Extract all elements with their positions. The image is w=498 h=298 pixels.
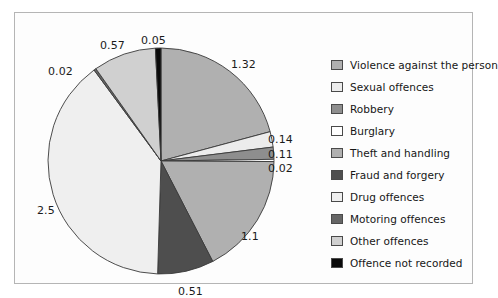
chart-frame: 0.051.320.140.110.021.10.512.50.020.57 V… — [14, 12, 473, 284]
legend-item[interactable]: Robbery — [331, 98, 481, 120]
legend-item[interactable]: Fraud and forgery — [331, 164, 481, 186]
legend-item[interactable]: Violence against the person — [331, 54, 481, 76]
legend-item[interactable]: Theft and handling — [331, 142, 481, 164]
legend-swatch-drug — [331, 192, 343, 202]
legend-item-label: Theft and handling — [350, 148, 450, 159]
pie-chart-area: 0.051.320.140.110.021.10.512.50.020.57 — [15, 13, 315, 298]
legend-item[interactable]: Other offences — [331, 230, 481, 252]
legend-item-label: Fraud and forgery — [350, 170, 445, 181]
pie-slice-value-label: 1.32 — [231, 59, 256, 70]
pie-slice-value-label: 0.02 — [48, 66, 73, 77]
legend-item-label: Motoring offences — [350, 214, 445, 225]
legend-item-label: Sexual offences — [350, 82, 434, 93]
pie-slice-value-label: 0.02 — [268, 163, 293, 174]
legend-item-label: Burglary — [350, 126, 395, 137]
pie-slice-value-label: 0.51 — [178, 286, 203, 297]
legend-swatch-motoring — [331, 214, 343, 224]
legend-item[interactable]: Burglary — [331, 120, 481, 142]
legend-swatch-theft — [331, 148, 343, 158]
legend-item[interactable]: Motoring offences — [331, 208, 481, 230]
legend-swatch-other — [331, 236, 343, 246]
legend-swatch-robbery — [331, 104, 343, 114]
legend-item[interactable]: Offence not recorded — [331, 252, 481, 274]
pie-slice-value-label: 0.14 — [268, 134, 293, 145]
legend-swatch-sexual — [331, 82, 343, 92]
pie-slice-value-label: 0.05 — [141, 35, 166, 46]
legend-item-label: Drug offences — [350, 192, 424, 203]
pie-slice-value-label: 1.1 — [241, 231, 259, 242]
legend-swatch-violence — [331, 60, 343, 70]
legend-item-label: Violence against the person — [350, 60, 498, 71]
pie-slice-value-label: 0.57 — [100, 40, 125, 51]
pie-slice-value-label: 2.5 — [37, 205, 55, 216]
legend-item-label: Other offences — [350, 236, 429, 247]
chart-legend: Violence against the personSexual offenc… — [331, 54, 481, 274]
pie-slice-value-label: 0.11 — [268, 149, 293, 160]
legend-item[interactable]: Sexual offences — [331, 76, 481, 98]
legend-item[interactable]: Drug offences — [331, 186, 481, 208]
legend-swatch-fraud — [331, 170, 343, 180]
legend-swatch-not-recorded — [331, 258, 343, 268]
legend-swatch-burglary — [331, 126, 343, 136]
legend-item-label: Offence not recorded — [350, 258, 463, 269]
legend-item-label: Robbery — [350, 104, 394, 115]
